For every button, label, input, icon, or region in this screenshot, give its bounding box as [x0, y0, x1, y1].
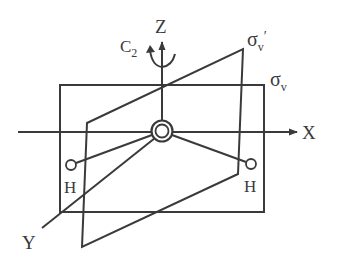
h-right-label: H [244, 177, 256, 196]
z-axis-label: Z [155, 16, 167, 37]
y-axis-label: Y [22, 232, 36, 253]
x-axis-label: X [302, 122, 316, 143]
hydrogen-atom-left [66, 160, 76, 170]
oxygen-atom-inner [156, 125, 169, 138]
sigma-v-label: σv [270, 68, 287, 94]
c2v-symmetry-diagram: Z X Y C2 σv′ σv H H [0, 0, 339, 257]
sigma-v-prime-label: σv′ [247, 28, 267, 54]
bond-right [172, 135, 246, 162]
c2-label: C2 [120, 37, 137, 60]
y-axis [42, 138, 155, 228]
h-left-label: H [64, 178, 76, 197]
c2-arrowhead-icon [146, 45, 155, 53]
hydrogen-atom-right [246, 159, 256, 169]
